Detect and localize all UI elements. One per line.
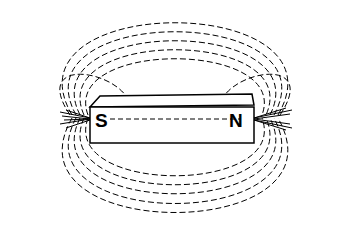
field-lines: [0, 0, 353, 228]
north-pole-label: N: [229, 110, 243, 132]
south-pole-label: S: [95, 110, 108, 132]
magnet-field-diagram: S N: [0, 0, 353, 228]
